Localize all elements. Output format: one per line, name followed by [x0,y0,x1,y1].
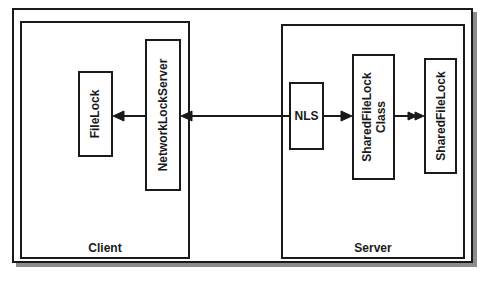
arrowhead-networklockserver-icon [181,111,192,121]
arrowhead-sharedfilelockclass-icon [341,111,352,121]
arrows-layer [0,0,484,282]
arrowhead-filelock-icon [113,111,124,121]
double-arrowhead-2-icon [415,112,424,120]
